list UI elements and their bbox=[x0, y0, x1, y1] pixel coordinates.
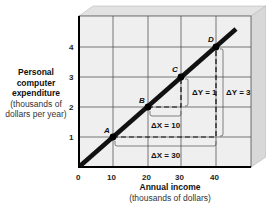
y-axis-title-2: computer bbox=[0, 78, 72, 89]
x-axis-title: Annual income bbox=[100, 182, 240, 193]
label-c: C bbox=[172, 65, 178, 74]
y-axis-title-3: expenditure bbox=[0, 88, 72, 99]
point-b bbox=[145, 104, 152, 111]
point-c bbox=[178, 74, 185, 81]
y-tick-1: 1 bbox=[69, 133, 74, 142]
delta-y-1: ΔY = 1 bbox=[192, 88, 217, 97]
label-a: A bbox=[103, 126, 110, 135]
y-axis-units-2: dollars per year) bbox=[0, 109, 72, 120]
x-tick-40: 40 bbox=[210, 173, 219, 182]
delta-x-10: ΔX = 10 bbox=[151, 121, 181, 130]
box-top-face bbox=[79, 6, 266, 16]
point-d bbox=[213, 44, 220, 51]
y-tick-4: 4 bbox=[69, 43, 74, 52]
box-right-face bbox=[251, 6, 266, 167]
x-axis-units: (thousands of dollars) bbox=[100, 193, 240, 204]
x-tick-20: 20 bbox=[142, 173, 151, 182]
delta-y-3: ΔY = 3 bbox=[226, 88, 251, 97]
y-axis-units-1: (thousands of bbox=[0, 99, 72, 110]
x-tick-30: 30 bbox=[175, 173, 184, 182]
x-tick-10: 10 bbox=[107, 173, 116, 182]
delta-x-30: ΔX = 30 bbox=[151, 151, 181, 160]
y-axis-title-1: Personal bbox=[0, 67, 72, 78]
point-a bbox=[110, 134, 117, 141]
x-tick-0: 0 bbox=[76, 173, 81, 182]
label-d: D bbox=[208, 35, 214, 44]
x-axis-label: Annual income (thousands of dollars) bbox=[100, 182, 240, 203]
y-axis-label: Personal computer expenditure (thousands… bbox=[0, 67, 72, 120]
label-b: B bbox=[139, 96, 145, 105]
